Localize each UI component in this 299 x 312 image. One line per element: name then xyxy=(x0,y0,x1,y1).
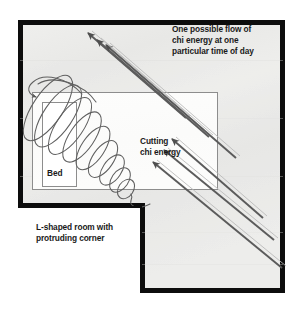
bed-rect xyxy=(43,103,77,187)
chi-energy-diagram: One possible flow of chi energy at one p… xyxy=(0,0,299,312)
diagram-canvas xyxy=(0,0,299,312)
bed-shape xyxy=(43,103,77,187)
